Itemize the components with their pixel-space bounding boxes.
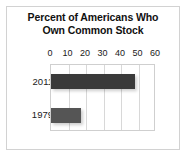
x-tick-label-30: 30 [97, 48, 107, 58]
x-tick-label-10: 10 [62, 48, 72, 58]
x-axis-tick-labels: 0102030405060 [50, 48, 175, 60]
x-tick-label-50: 50 [132, 48, 142, 58]
chart-title-line-2: Own Common Stock [7, 24, 179, 37]
y-axis-category-labels: 20111979 [15, 64, 53, 131]
gridline-50 [139, 65, 140, 130]
plot-area [50, 64, 155, 131]
x-tick-label-20: 20 [80, 48, 90, 58]
x-tick-label-60: 60 [150, 48, 160, 58]
bar-1979 [51, 108, 81, 123]
chart-figure: Percent of Americans WhoOwn Common Stock… [6, 6, 180, 150]
chart-title-line-1: Percent of Americans Who [7, 11, 179, 24]
x-tick-label-0: 0 [47, 48, 52, 58]
chart-title: Percent of Americans WhoOwn Common Stock [7, 11, 179, 37]
x-tick-label-40: 40 [115, 48, 125, 58]
bar-2011 [51, 74, 135, 89]
